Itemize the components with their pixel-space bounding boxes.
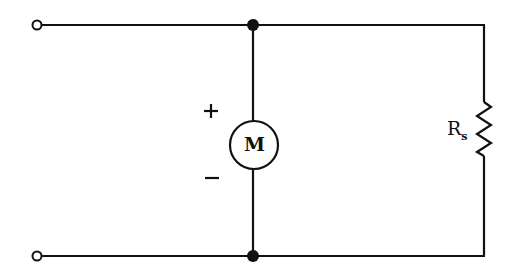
resistor-label: Rs — [447, 117, 468, 143]
resistor-zigzag — [477, 102, 491, 156]
junction-top — [247, 19, 259, 31]
input-terminal-bottom — [33, 252, 42, 261]
resistor-label-main: R — [447, 117, 461, 139]
circuit-diagram: M Rs — [0, 0, 521, 280]
input-terminal-top — [33, 21, 42, 30]
junction-bottom — [247, 250, 259, 262]
motor-label: M — [244, 133, 265, 155]
resistor-label-subscript: s — [461, 130, 467, 143]
